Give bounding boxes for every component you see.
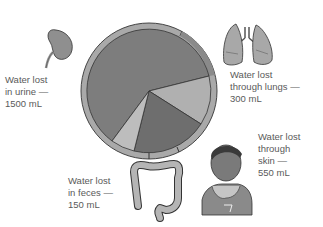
kidney-icon (46, 30, 72, 68)
feces-label: Water lost in feces — 150 mL (68, 175, 113, 211)
person-icon (202, 145, 252, 215)
pie-chart (87, 29, 211, 153)
water-loss-diagram (0, 0, 323, 227)
lungs-icon (224, 24, 273, 65)
lungs-label: Water lost through lungs — 300 mL (230, 69, 300, 105)
intestines-icon (134, 164, 179, 218)
skin-label: Water lost through skin — 550 mL (258, 131, 300, 179)
urine-label: Water lost in urine — 1500 mL (5, 74, 48, 110)
